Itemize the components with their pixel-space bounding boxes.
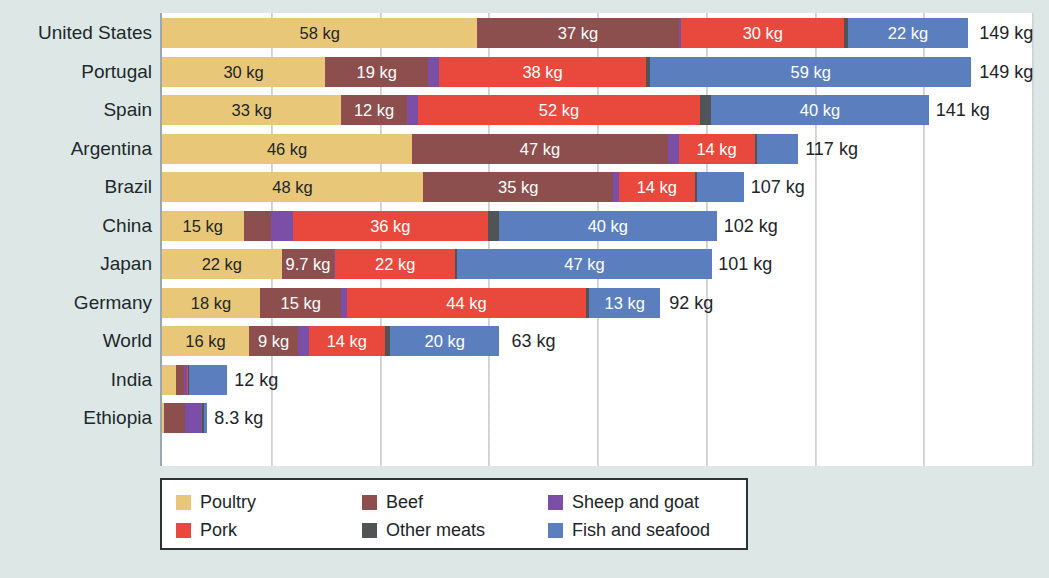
row-label-china: China [0, 210, 152, 242]
bar-segment-poultry: 30 kg [162, 57, 325, 87]
bar-segment-beef: 19 kg [325, 57, 428, 87]
chart-row: Argentina46 kg47 kg14 kg117 kg [0, 133, 1049, 165]
row-label-germany: Germany [0, 287, 152, 319]
bar-segment-poultry: 33 kg [162, 95, 341, 125]
bar-segment-beef: 35 kg [423, 172, 613, 202]
stacked-bar: 58 kg37 kg30 kg22 kg [162, 18, 968, 48]
bar-segment-poultry: 16 kg [162, 326, 249, 356]
row-label-world: World [0, 325, 152, 357]
bar-segment-pork: 22 kg [335, 249, 455, 279]
segment-value-label: 22 kg [375, 249, 415, 279]
segment-value-label: 22 kg [202, 249, 242, 279]
segment-value-label: 20 kg [425, 326, 465, 356]
legend-item-poultry[interactable]: Poultry [176, 488, 362, 516]
bar-segment-poultry: 15 kg [162, 211, 244, 241]
bar-segment-fish-and-seafood [189, 365, 227, 395]
segment-value-label: 35 kg [498, 172, 538, 202]
bar-segment-poultry: 58 kg [162, 18, 477, 48]
row-label-argentina: Argentina [0, 133, 152, 165]
chart-row: Portugal30 kg19 kg38 kg59 kg149 kg [0, 56, 1049, 88]
bar-segment-fish-and-seafood: 22 kg [848, 18, 968, 48]
chart-legend: PoultryBeefSheep and goatPorkOther meats… [160, 478, 748, 550]
segment-value-label: 46 kg [267, 134, 307, 164]
bar-segment-fish-and-seafood: 20 kg [390, 326, 499, 356]
bar-segment-beef: 47 kg [412, 134, 668, 164]
row-label-portugal: Portugal [0, 56, 152, 88]
bar-segment-beef [176, 365, 184, 395]
bar-segment-fish-and-seafood [757, 134, 798, 164]
segment-value-label: 15 kg [280, 288, 320, 318]
segment-value-label: 36 kg [370, 211, 410, 241]
legend-item-fish-and-seafood[interactable]: Fish and seafood [548, 516, 734, 544]
segment-value-label: 58 kg [300, 18, 340, 48]
bar-segment-sheep-and-goat [185, 403, 201, 433]
segment-value-label: 40 kg [588, 211, 628, 241]
legend-swatch-icon [548, 495, 563, 510]
row-label-japan: Japan [0, 248, 152, 280]
bar-segment-sheep-and-goat [428, 57, 439, 87]
segment-value-label: 47 kg [564, 249, 604, 279]
legend-label: Fish and seafood [572, 520, 710, 541]
row-total-label: 141 kg [929, 94, 990, 126]
bar-segment-beef: 9 kg [249, 326, 298, 356]
legend-swatch-icon [176, 523, 191, 538]
legend-item-other-meats[interactable]: Other meats [362, 516, 548, 544]
segment-value-label: 13 kg [605, 288, 645, 318]
segment-value-label: 16 kg [185, 326, 225, 356]
stacked-bar: 15 kg36 kg40 kg [162, 211, 717, 241]
row-label-ethiopia: Ethiopia [0, 402, 152, 434]
legend-item-pork[interactable]: Pork [176, 516, 362, 544]
row-label-india: India [0, 364, 152, 396]
stacked-bar: 30 kg19 kg38 kg59 kg [162, 57, 971, 87]
segment-value-label: 30 kg [743, 18, 783, 48]
bar-segment-beef: 12 kg [341, 95, 406, 125]
segment-value-label: 14 kg [696, 134, 736, 164]
segment-value-label: 9 kg [258, 326, 289, 356]
row-label-brazil: Brazil [0, 171, 152, 203]
chart-row: World16 kg9 kg14 kg20 kg63 kg [0, 325, 1049, 357]
chart-row: Spain33 kg12 kg52 kg40 kg141 kg [0, 94, 1049, 126]
row-total-label: 63 kg [505, 325, 556, 357]
segment-value-label: 30 kg [223, 57, 263, 87]
stacked-bar [162, 403, 207, 433]
stacked-bar: 22 kg9.7 kg22 kg47 kg [162, 249, 712, 279]
row-total-label: 117 kg [798, 133, 858, 165]
legend-item-beef[interactable]: Beef [362, 488, 548, 516]
bar-segment-sheep-and-goat [668, 134, 679, 164]
bar-segment-fish-and-seafood: 47 kg [457, 249, 713, 279]
row-label-united-states: United States [0, 17, 152, 49]
stacked-bar: 33 kg12 kg52 kg40 kg [162, 95, 929, 125]
chart-row: India12 kg [0, 364, 1049, 396]
segment-value-label: 38 kg [522, 57, 562, 87]
bar-segment-other-meats [700, 95, 711, 125]
chart-row: Brazil48 kg35 kg14 kg107 kg [0, 171, 1049, 203]
bar-segment-beef: 37 kg [477, 18, 678, 48]
segment-value-label: 14 kg [327, 326, 367, 356]
legend-item-sheep-and-goat[interactable]: Sheep and goat [548, 488, 734, 516]
chart-row: Germany18 kg15 kg44 kg13 kg92 kg [0, 287, 1049, 319]
segment-value-label: 47 kg [520, 134, 560, 164]
bar-segment-pork: 14 kg [619, 172, 695, 202]
segment-value-label: 14 kg [637, 172, 677, 202]
legend-label: Poultry [200, 492, 256, 513]
bar-segment-fish-and-seafood: 13 kg [589, 288, 660, 318]
row-total-label: 149 kg [972, 56, 1033, 88]
segment-value-label: 15 kg [183, 211, 223, 241]
bar-segment-poultry: 46 kg [162, 134, 412, 164]
legend-swatch-icon [362, 523, 377, 538]
bar-segment-pork: 36 kg [293, 211, 489, 241]
bar-segment-pork: 14 kg [679, 134, 755, 164]
bar-segment-poultry: 18 kg [162, 288, 260, 318]
legend-label: Beef [386, 492, 423, 513]
segment-value-label: 48 kg [272, 172, 312, 202]
bar-segment-pork: 14 kg [309, 326, 385, 356]
bar-segment-beef: 9.7 kg [282, 249, 335, 279]
bar-segment-pork: 30 kg [681, 18, 844, 48]
segment-value-label: 22 kg [888, 18, 928, 48]
bar-segment-poultry: 48 kg [162, 172, 423, 202]
legend-swatch-icon [362, 495, 377, 510]
legend-label: Sheep and goat [572, 492, 699, 513]
legend-swatch-icon [548, 523, 563, 538]
bar-segment-beef [244, 211, 271, 241]
bar-segment-sheep-and-goat [271, 211, 293, 241]
